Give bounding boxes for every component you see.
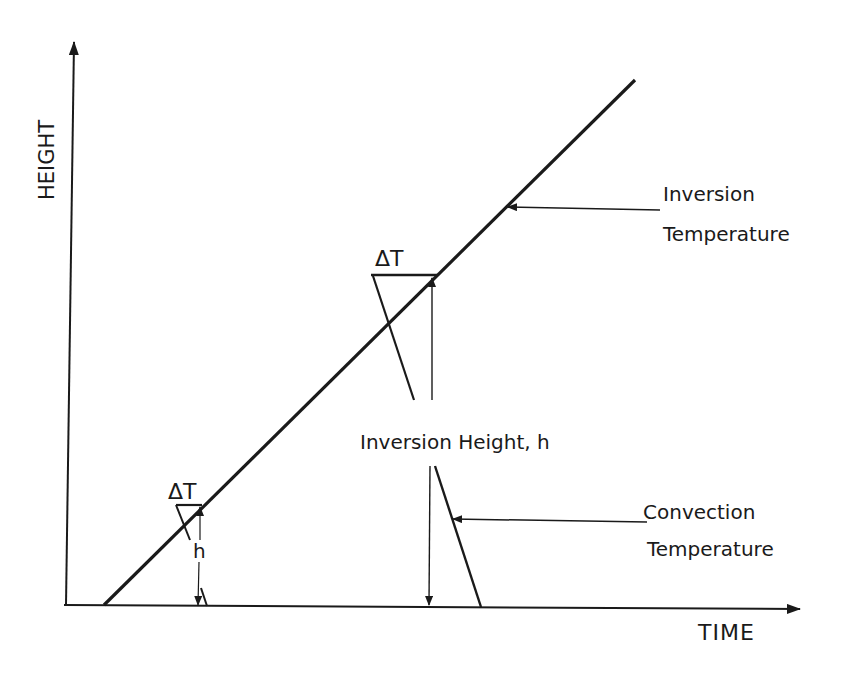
convection-temperature-label-line2: Temperature [646, 537, 774, 561]
delta-t-label-upper: ΔT [375, 246, 404, 271]
h-label: h [193, 539, 206, 563]
x-axis [64, 605, 800, 609]
convection-temperature-line-small [201, 588, 207, 606]
inversion-height-arrow-down [429, 466, 430, 605]
inversion-temperature-label: Inversion [663, 182, 755, 206]
inversion-height-label: Inversion Height, h [360, 430, 550, 454]
inversion-diagram: HEIGHT TIME Inversion Temperature Convec… [0, 0, 842, 679]
inversion-temperature-pointer [508, 207, 660, 210]
convection-temperature-pointer [453, 519, 647, 522]
convection-temperature-line-upper [373, 276, 414, 400]
convection-temperature-label: Convection [643, 500, 755, 524]
y-axis [66, 42, 74, 605]
delta-t-label-lower: ΔT [168, 479, 197, 504]
y-axis-label: HEIGHT [35, 120, 59, 200]
h-arrow-down [198, 562, 199, 605]
convection-temperature-line [435, 466, 481, 607]
inversion-temperature-label-line2: Temperature [662, 222, 790, 246]
x-axis-label: TIME [697, 620, 755, 645]
